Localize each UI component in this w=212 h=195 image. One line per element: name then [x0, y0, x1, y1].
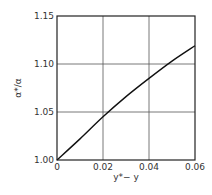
x-tick-labels: 00.020.040.06	[54, 162, 205, 172]
x-axis-label: y*− y	[113, 172, 139, 182]
x-tick-label: 0.02	[93, 162, 113, 172]
y-tick-label: 1.10	[34, 59, 54, 69]
data-curve	[57, 46, 195, 160]
y-tick-label: 1.00	[34, 155, 54, 165]
y-axis-label: α*/α	[13, 78, 23, 97]
x-tick-label: 0	[54, 162, 60, 172]
grid-lines	[57, 16, 195, 160]
y-tick-label: 1.05	[34, 107, 54, 117]
line-chart: 1.001.051.101.15 00.020.040.06 y*− y α*/…	[0, 0, 212, 195]
plot-frame	[57, 16, 195, 160]
x-tick-label: 0.06	[185, 162, 205, 172]
x-tick-label: 0.04	[139, 162, 159, 172]
y-tick-labels: 1.001.051.101.15	[34, 11, 54, 165]
y-tick-label: 1.15	[34, 11, 54, 21]
